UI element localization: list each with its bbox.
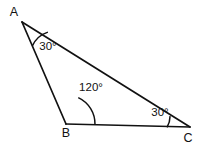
vertex-label-B: B xyxy=(62,126,70,140)
angle-label-B: 120° xyxy=(79,81,103,93)
angle-label-C: 30° xyxy=(151,106,168,118)
vertex-label-C: C xyxy=(183,131,192,145)
vertex-label-A: A xyxy=(10,5,19,19)
triangle-figure: A B C 30° 120° 30° xyxy=(0,0,199,147)
angle-arc-B xyxy=(78,98,95,125)
edge-AB xyxy=(22,22,66,124)
geometry-diagram-canvas: A B C 30° 120° 30° xyxy=(0,0,199,147)
edge-BC xyxy=(66,124,190,127)
angle-label-A: 30° xyxy=(39,40,56,52)
